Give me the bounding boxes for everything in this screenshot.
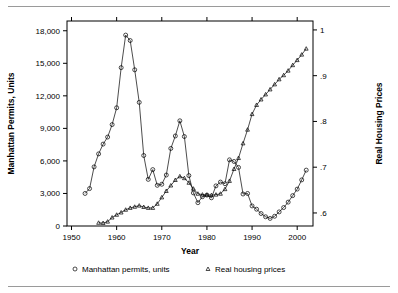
x-tick-label: 2000 (288, 233, 306, 242)
y-axis-left: 03,0006,0009,00012,00015,00018,000 (36, 27, 67, 231)
plot-frame (67, 21, 313, 226)
data-point-triangle (97, 221, 101, 225)
y-tick-label: 18,000 (36, 27, 61, 36)
y2-tick-label: .9 (320, 72, 327, 81)
y2-tick-label: 1 (320, 26, 325, 35)
series-1 (83, 33, 308, 220)
legend-marker-circle (73, 267, 77, 271)
y-axis-right: .6.7.8.91 (313, 26, 327, 218)
y2-tick-label: .7 (320, 163, 327, 172)
series-2 (97, 47, 308, 225)
y-tick-label: 0 (56, 222, 61, 231)
data-point-circle (83, 191, 87, 195)
legend-marker-triangle (206, 267, 210, 271)
chart-svg: 195019601970198019902000Year03,0006,0009… (0, 0, 398, 293)
legend-label-2: Real housing prices (215, 265, 285, 274)
x-axis-title: Year (181, 246, 200, 256)
legend-label-1: Manhattan permits, units (82, 265, 170, 274)
y-tick-label: 6,000 (40, 157, 61, 166)
y-tick-label: 15,000 (36, 59, 61, 68)
chart-legend: Manhattan permits, unitsReal housing pri… (73, 265, 285, 274)
y2-axis-title: Real Housing Prices (374, 82, 384, 164)
y-axis-title: Manhattan Permits, Units (6, 72, 16, 174)
x-tick-label: 1960 (108, 233, 126, 242)
chart-plot-area: 195019601970198019902000Year03,0006,0009… (0, 0, 398, 293)
y2-tick-label: .6 (320, 209, 327, 218)
figure-container: 195019601970198019902000Year03,0006,0009… (0, 0, 398, 293)
y-tick-label: 3,000 (40, 189, 61, 198)
x-tick-label: 1970 (153, 233, 171, 242)
x-axis: 195019601970198019902000 (63, 17, 307, 242)
x-tick-label: 1950 (63, 233, 81, 242)
data-point-triangle (304, 47, 308, 51)
y-tick-label: 12,000 (36, 92, 61, 101)
x-tick-label: 1990 (243, 233, 261, 242)
y-tick-label: 9,000 (40, 124, 61, 133)
y2-tick-label: .8 (320, 117, 327, 126)
x-tick-label: 1980 (198, 233, 216, 242)
